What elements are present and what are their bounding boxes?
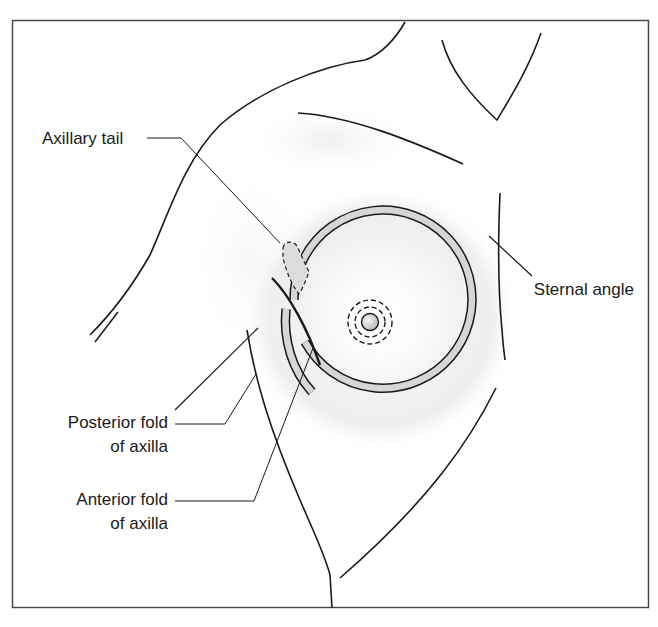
diagram-canvas: Axillary tail Sternal angle Posterior fo… (0, 0, 658, 627)
label-axillary-tail: Axillary tail (42, 129, 123, 148)
label-sternal-angle: Sternal angle (534, 280, 634, 299)
label-posterior-fold-line1: Posterior fold (68, 413, 168, 432)
label-anterior-fold-line1: Anterior fold (76, 490, 168, 509)
label-anterior-fold-line2: of axilla (110, 514, 168, 533)
breast-axilla-diagram: Axillary tail Sternal angle Posterior fo… (0, 0, 658, 627)
label-posterior-fold-line2: of axilla (110, 437, 168, 456)
